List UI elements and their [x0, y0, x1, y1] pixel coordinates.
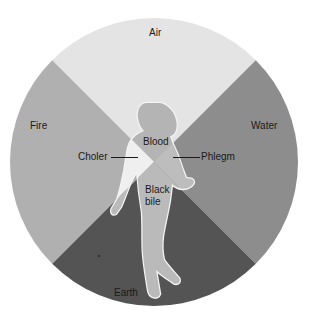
speck	[98, 255, 100, 257]
label-black-bile-2: bile	[145, 196, 161, 207]
choler-leader-line	[111, 157, 138, 158]
label-fire: Fire	[30, 120, 47, 131]
phlegm-leader-line	[173, 157, 200, 158]
label-blood: Blood	[143, 136, 169, 147]
label-phlegm: Phlegm	[201, 151, 235, 162]
label-earth: Earth	[114, 287, 138, 298]
label-air: Air	[149, 27, 161, 38]
label-water: Water	[251, 120, 277, 131]
humours-wheel	[0, 0, 310, 320]
label-choler: Choler	[78, 151, 107, 162]
label-black-bile-1: Black	[145, 184, 169, 195]
humours-diagram: Air Fire Water Earth Blood Choler Phlegm…	[0, 0, 310, 320]
